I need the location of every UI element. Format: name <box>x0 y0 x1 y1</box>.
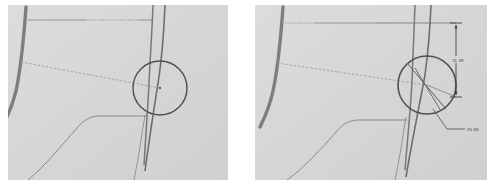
panel-background <box>255 5 487 180</box>
figure-root: 11.39 25.83 <box>0 0 493 185</box>
vertical-dimension-label: 11.39 <box>452 58 464 63</box>
panel-right-dimensioned: 11.39 25.83 <box>255 5 487 180</box>
circle-center-marker <box>159 87 161 89</box>
panel-left-undimensioned <box>8 5 228 180</box>
panel-background <box>8 5 228 180</box>
leader-dimension-label: 25.83 <box>467 127 479 132</box>
